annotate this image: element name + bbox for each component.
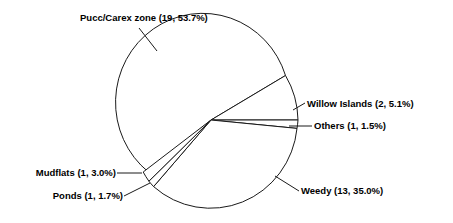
pie-chart-figure: Pucc/Carex zone (19, 53.7%) Willow Islan… bbox=[0, 0, 453, 223]
slice-label-ponds: Ponds (1, 1.7%) bbox=[15, 190, 123, 201]
leader-line-weedy bbox=[275, 176, 299, 191]
slice-label-mudflats: Mudflats (1, 3.0%) bbox=[8, 167, 116, 178]
slice-label-others: Others (1, 1.5%) bbox=[314, 120, 386, 131]
slice-label-pucc-carex-zone: Pucc/Carex zone (19, 53.7%) bbox=[80, 12, 208, 23]
leader-line-ponds bbox=[124, 183, 150, 196]
slice-label-weedy: Weedy (13, 35.0%) bbox=[301, 185, 383, 196]
slice-label-willow-islands: Willow Islands (2, 5.1%) bbox=[307, 98, 414, 109]
